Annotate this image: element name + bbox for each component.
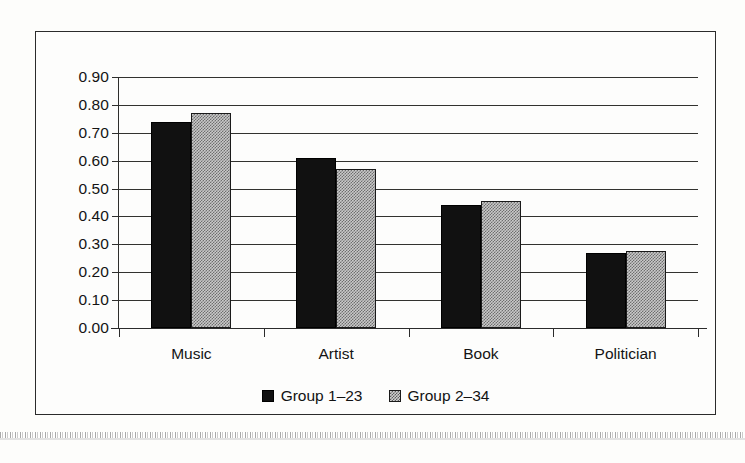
y-axis-tick-label: 0.20	[78, 263, 109, 281]
y-axis-tick	[112, 105, 119, 106]
legend-item-1: Group 1–23	[262, 387, 363, 405]
y-axis-tick	[112, 272, 119, 273]
x-axis-tick	[264, 328, 265, 337]
y-axis-tick-label: 0.40	[78, 207, 109, 225]
y-axis-tick-label: 0.90	[78, 68, 109, 86]
legend-item-2: Group 2–34	[389, 387, 490, 405]
gridline	[119, 77, 698, 78]
legend-label: Group 2–34	[408, 387, 490, 405]
y-axis-tick-label: 0.50	[78, 180, 109, 198]
y-axis-tick	[112, 161, 119, 162]
bar-book-series-2	[481, 201, 521, 328]
x-axis-category-label-music: Music	[171, 345, 211, 363]
y-axis-tick	[112, 300, 119, 301]
figure-frame: 0.900.800.700.600.500.400.300.200.100.00…	[35, 31, 716, 415]
y-axis-tick	[112, 133, 119, 134]
y-axis-tick	[112, 77, 119, 78]
checkered-gray-square-icon	[389, 390, 401, 402]
y-axis-tick-label: 0.10	[78, 291, 109, 309]
x-axis-tick	[409, 328, 410, 337]
y-axis-tick-label: 0.70	[78, 124, 109, 142]
scan-artifact-line-secondary	[0, 438, 745, 440]
y-axis-tick-label: 0.80	[78, 96, 109, 114]
y-axis-tick-label: 0.30	[78, 235, 109, 253]
bar-artist-series-1	[296, 158, 336, 328]
x-axis-tick	[119, 328, 120, 337]
bar-music-series-1	[151, 122, 191, 328]
y-axis-tick-label: 0.00	[78, 319, 109, 337]
y-axis-tick	[112, 216, 119, 217]
y-axis-tick	[112, 244, 119, 245]
gridline	[119, 105, 698, 106]
bar-music-series-2	[191, 113, 231, 328]
x-axis-category-label-politician: Politician	[595, 345, 657, 363]
bar-politician-series-1	[586, 253, 626, 328]
bar-politician-series-2	[626, 251, 666, 328]
y-axis-tick-label: 0.60	[78, 152, 109, 170]
bar-artist-series-2	[336, 169, 376, 328]
x-axis-category-label-artist: Artist	[318, 345, 353, 363]
x-axis-category-label-book: Book	[463, 345, 498, 363]
legend-label: Group 1–23	[281, 387, 363, 405]
x-axis-tick	[553, 328, 554, 337]
bar-book-series-1	[441, 205, 481, 328]
solid-black-square-icon	[262, 390, 274, 402]
plot-area: 0.900.800.700.600.500.400.300.200.100.00…	[119, 77, 698, 328]
chart-page: 0.900.800.700.600.500.400.300.200.100.00…	[0, 0, 745, 463]
y-axis-tick	[112, 189, 119, 190]
x-axis-tick	[698, 328, 699, 337]
chart-legend: Group 1–23Group 2–34	[36, 387, 715, 405]
y-axis-line	[118, 77, 119, 328]
